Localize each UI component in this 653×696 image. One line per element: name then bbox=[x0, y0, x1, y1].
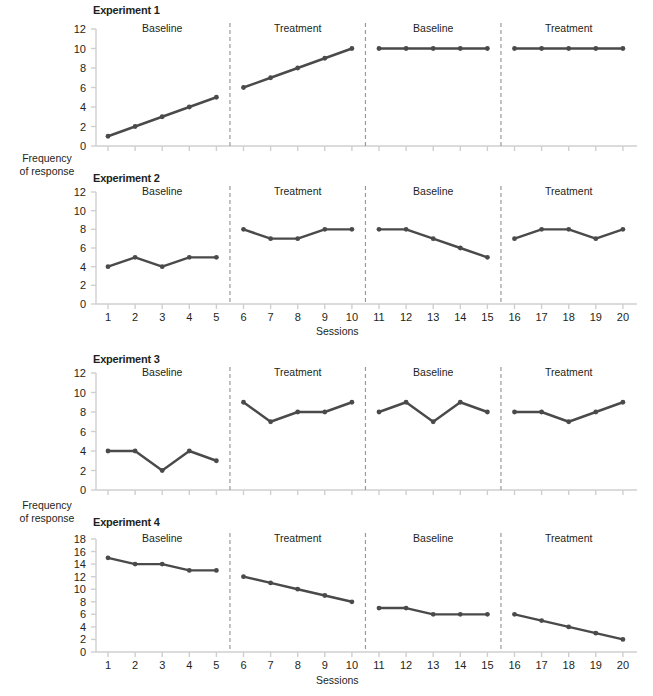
panel-title-experiment-2: Experiment 2 bbox=[93, 172, 160, 184]
data-point bbox=[133, 562, 138, 567]
y-tick-label: 4 bbox=[80, 101, 86, 113]
x-tick-label: 5 bbox=[213, 311, 219, 323]
figure-canvas: Frequency of response Frequency of respo… bbox=[0, 0, 653, 696]
x-tick-label: 1 bbox=[105, 659, 111, 671]
y-tick-label: 12 bbox=[74, 186, 86, 198]
y-tick-label: 2 bbox=[80, 465, 86, 477]
x-tick-label: 6 bbox=[240, 659, 246, 671]
data-point bbox=[241, 227, 246, 232]
phase-label: Treatment bbox=[545, 366, 593, 378]
x-tick-label: 8 bbox=[295, 311, 301, 323]
data-point bbox=[458, 246, 463, 251]
y-tick-label: 4 bbox=[80, 445, 86, 457]
panel-title-experiment-3: Experiment 3 bbox=[93, 353, 160, 365]
data-point bbox=[377, 227, 382, 232]
data-point bbox=[268, 75, 273, 80]
x-tick-label: 10 bbox=[346, 311, 358, 323]
data-point bbox=[404, 227, 409, 232]
data-point bbox=[431, 46, 436, 51]
data-point bbox=[160, 264, 165, 269]
phase-label: Treatment bbox=[274, 366, 322, 378]
y-tick-label: 10 bbox=[74, 43, 86, 55]
phase-label: Baseline bbox=[413, 532, 453, 544]
data-point bbox=[133, 449, 138, 454]
chart-svg-experiment-4: 0246810121416181234567891011121314151617… bbox=[0, 530, 653, 680]
y-tick-label: 12 bbox=[74, 367, 86, 379]
data-point bbox=[241, 400, 246, 405]
data-point bbox=[512, 236, 517, 241]
x-tick-label: 10 bbox=[346, 659, 358, 671]
x-tick-label: 16 bbox=[508, 311, 520, 323]
data-point bbox=[621, 637, 626, 642]
phase-label: Baseline bbox=[413, 366, 453, 378]
data-point bbox=[431, 419, 436, 424]
data-point bbox=[322, 410, 327, 415]
phase-label: Baseline bbox=[142, 185, 182, 197]
phase-label: Baseline bbox=[413, 22, 453, 34]
data-point bbox=[593, 410, 598, 415]
y-tick-label: 0 bbox=[80, 646, 86, 658]
data-point bbox=[322, 593, 327, 598]
x-tick-label: 15 bbox=[481, 659, 493, 671]
data-point bbox=[187, 105, 192, 110]
phase-label: Baseline bbox=[142, 366, 182, 378]
data-point bbox=[214, 458, 219, 463]
data-point bbox=[485, 255, 490, 260]
x-tick-label: 8 bbox=[295, 659, 301, 671]
chart-svg-experiment-3: 024681012BaselineTreatmentBaselineTreatm… bbox=[0, 365, 653, 500]
x-tick-label: 7 bbox=[268, 659, 274, 671]
x-tick-label: 19 bbox=[590, 659, 602, 671]
y-tick-label: 2 bbox=[80, 121, 86, 133]
data-point bbox=[458, 46, 463, 51]
x-tick-label: 18 bbox=[563, 311, 575, 323]
data-point bbox=[350, 46, 355, 51]
data-point bbox=[187, 568, 192, 573]
x-tick-label: 19 bbox=[590, 311, 602, 323]
data-point bbox=[187, 449, 192, 454]
y-tick-label: 8 bbox=[80, 62, 86, 74]
data-point bbox=[539, 618, 544, 623]
x-tick-label: 16 bbox=[508, 659, 520, 671]
y-axis-label-lower-line1: Frequency bbox=[2, 499, 92, 512]
x-tick-label: 14 bbox=[454, 659, 466, 671]
data-point bbox=[350, 400, 355, 405]
data-point bbox=[106, 134, 111, 139]
data-point bbox=[133, 255, 138, 260]
data-line bbox=[379, 402, 487, 422]
x-axis-label-upper: Sessions bbox=[316, 325, 359, 337]
y-tick-label: 6 bbox=[80, 426, 86, 438]
phase-label: Treatment bbox=[545, 185, 593, 197]
data-point bbox=[214, 255, 219, 260]
data-point bbox=[241, 85, 246, 90]
data-point bbox=[322, 227, 327, 232]
y-axis-label-lower-line2: of response bbox=[2, 512, 92, 525]
panel-title-experiment-1: Experiment 1 bbox=[93, 4, 160, 16]
data-point bbox=[458, 400, 463, 405]
data-point bbox=[621, 46, 626, 51]
chart-svg-experiment-1: 024681012BaselineTreatmentBaselineTreatm… bbox=[0, 20, 653, 155]
data-point bbox=[512, 612, 517, 617]
data-point bbox=[106, 555, 111, 560]
data-line bbox=[108, 451, 216, 471]
data-point bbox=[106, 264, 111, 269]
data-point bbox=[241, 574, 246, 579]
data-point bbox=[539, 410, 544, 415]
phase-label: Treatment bbox=[274, 185, 322, 197]
y-tick-label: 8 bbox=[80, 223, 86, 235]
y-axis-label-lower: Frequency of response bbox=[2, 499, 92, 525]
data-point bbox=[458, 612, 463, 617]
y-tick-label: 16 bbox=[74, 546, 86, 558]
data-point bbox=[404, 46, 409, 51]
data-point bbox=[295, 236, 300, 241]
y-tick-label: 14 bbox=[74, 558, 86, 570]
chart-panel-experiment-3: 024681012BaselineTreatmentBaselineTreatm… bbox=[0, 365, 653, 500]
x-tick-label: 17 bbox=[535, 659, 547, 671]
data-point bbox=[295, 587, 300, 592]
data-point bbox=[106, 449, 111, 454]
x-tick-label: 5 bbox=[213, 659, 219, 671]
data-point bbox=[187, 255, 192, 260]
y-axis-label-upper-line2: of response bbox=[2, 165, 92, 178]
x-tick-label: 9 bbox=[322, 659, 328, 671]
data-point bbox=[268, 236, 273, 241]
data-point bbox=[593, 236, 598, 241]
